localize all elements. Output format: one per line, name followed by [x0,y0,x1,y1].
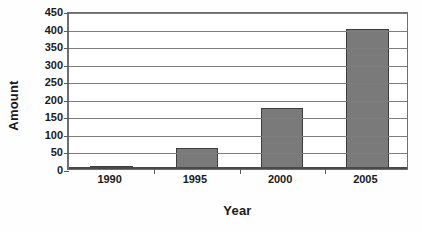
gridline [69,13,407,14]
x-axis-title: Year [67,203,408,218]
bar [346,29,389,169]
y-axis-tick-label: 350 [26,42,63,53]
bars-layer [69,13,407,169]
y-axis-title-text: Amount [6,80,21,130]
x-axis-tick-label: 1990 [97,174,121,185]
gridline [69,83,407,84]
y-axis-tick-mark [64,101,69,102]
y-axis-tick-mark [64,136,69,137]
gridline [69,66,407,67]
gridline [69,31,407,32]
y-axis-tick-label: 200 [26,94,63,105]
bar [261,108,304,169]
y-axis-tick-label: 100 [26,129,63,140]
x-axis-tick-label: 2000 [268,174,292,185]
y-axis-tick-label: 50 [26,147,63,158]
y-axis-tick-mark [64,118,69,119]
y-axis-tick-mark [64,13,69,14]
bar [176,148,219,169]
y-axis-tick-labels: 050100150200250300350400450 [26,12,63,170]
bar-chart-figure: Amount 050100150200250300350400450 19901… [0,0,422,232]
gridline [69,153,407,154]
gridline [69,101,407,102]
x-axis-tick-label: 2005 [353,174,377,185]
y-axis-tick-mark [64,153,69,154]
x-axis-baseline [69,167,407,169]
plot-area [67,12,408,170]
y-axis-tick-label: 150 [26,112,63,123]
x-axis-tick-labels: 1990199520002005 [67,174,408,190]
y-axis-tick-mark [64,171,69,172]
gridline [69,118,407,119]
x-axis-tick-label: 1995 [183,174,207,185]
y-axis-tick-mark [64,66,69,67]
y-axis-tick-mark [64,48,69,49]
y-axis-title: Amount [2,50,24,160]
gridline [69,136,407,137]
y-axis-tick-label: 250 [26,77,63,88]
y-axis-tick-label: 300 [26,59,63,70]
y-axis-tick-mark [64,83,69,84]
y-axis-tick-label: 450 [26,7,63,18]
y-axis-tick-label: 400 [26,24,63,35]
y-axis-tick-label: 0 [26,165,63,176]
gridline [69,48,407,49]
y-axis-tick-mark [64,31,69,32]
